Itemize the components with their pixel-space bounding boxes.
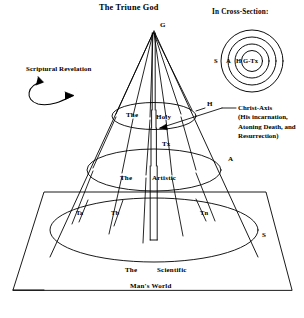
marker-h: H <box>207 101 212 108</box>
marker-a: A <box>228 156 233 163</box>
christ-axis-heading: Christ-Axis <box>238 103 296 112</box>
cross-section-label-s: S <box>214 58 218 65</box>
base-marker-ta: Ta <box>76 210 83 217</box>
scriptural-revelation-arrow <box>29 77 74 105</box>
diagram-title: The Triune God <box>99 4 159 12</box>
diagram-canvas: The Triune God G Scriptural Revelation I… <box>0 0 304 318</box>
ellipse-holy-label-holy: Holy <box>156 114 171 121</box>
cross-section-label-g-tx: G-Tx <box>243 58 258 65</box>
ellipse-scientific-label-the: The <box>125 267 137 274</box>
christ-axis-line-3: Resurrection) <box>238 131 296 140</box>
base-marker-tb: Tb <box>111 210 119 217</box>
diagram-linework <box>0 0 304 318</box>
marker-s: S <box>262 232 266 239</box>
marker-tick-h <box>196 108 205 111</box>
cone-generator-lines <box>72 33 215 243</box>
cross-section-label-h: H <box>236 58 241 65</box>
ellipse-scientific <box>50 198 258 262</box>
base-marker-tn: Tn <box>200 210 208 217</box>
apex-label-g: G <box>160 22 165 29</box>
christ-axis-line-2: Atoning Death, and <box>238 122 296 131</box>
christ-axis-annotation: Christ-Axis (His incarnation, Atoning De… <box>238 103 296 141</box>
cross-section-heading: In Cross-Section: <box>212 9 269 16</box>
ellipse-scientific-label-scientific: Scientific <box>157 267 187 274</box>
axis-label-tx: Tx <box>162 141 170 148</box>
mans-world-caption: Man's World <box>130 283 172 290</box>
ellipse-artistic-label-the: The <box>120 175 132 182</box>
cross-section-label-a: A <box>226 58 231 65</box>
ellipse-holy-label-the: The <box>126 112 138 119</box>
christ-axis-line-1: (His incarnation, <box>238 112 296 121</box>
ellipse-artistic-label-artistic: Artistic <box>152 175 176 182</box>
scriptural-revelation-label: Scriptural Revelation <box>26 66 91 73</box>
christ-axis-column <box>150 33 157 240</box>
